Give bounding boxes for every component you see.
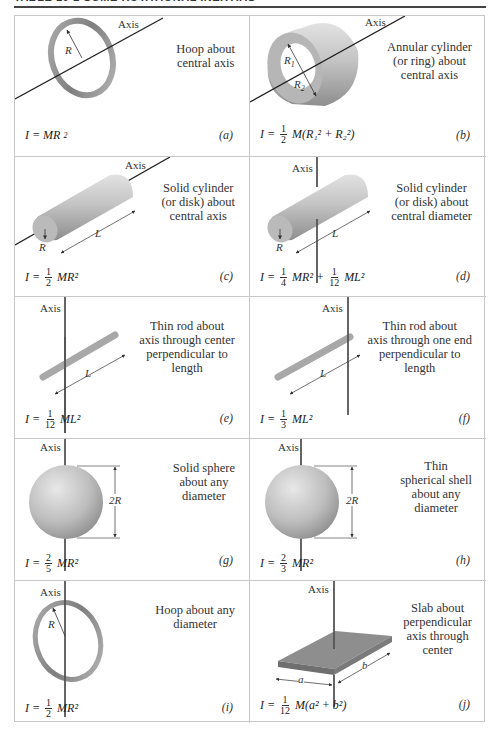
panel-e: Axis L Thin rod aboutaxis through center… [15,297,250,439]
panel-description: Solid cylinder(or disk) aboutcentral axi… [161,181,235,223]
panel-formula: I =13ML² [260,409,312,430]
panel-c: Axis R L Solid cylinder(or disk) aboutce… [15,157,250,297]
panel-letter: (j) [459,697,470,712]
panel-description: Thinspherical shellabout anydiameter [400,459,472,515]
length-label: L [320,367,326,379]
axis-label: Axis [308,583,329,595]
panel-formula: I =12MR² [25,267,78,288]
rotational-inertia-table: Axis R Hoop aboutcentral axis I = MR2 (a… [14,15,485,722]
axis-label: Axis [292,162,313,174]
panel-description: Solid cylinder(or disk) aboutcentral dia… [391,181,472,223]
panel-letter: (a) [219,128,233,143]
radius-label: R [39,241,46,253]
diameter-label: 2R [346,494,358,506]
axis-label: Axis [40,441,61,453]
panel-letter: (e) [220,411,233,426]
radius-label: R [276,241,283,253]
panel-formula: I = MR2 [25,128,67,143]
panel-letter: (c) [220,269,233,284]
panel-description: Hoop aboutcentral axis [176,42,235,70]
length-label: L [95,227,101,239]
axis-label: Axis [365,16,386,28]
panel-j: Axis a b Slab aboutperpendicularaxis thr… [250,581,486,723]
axis-label: Axis [118,18,139,30]
panel-b: Axis R1 R2 Annular cylinder(or ring) abo… [250,16,486,157]
panel-letter: (i) [222,700,233,715]
panel-description: Hoop about anydiameter [155,603,235,631]
inner-radius-label: R1 [284,54,295,69]
length-b-label: b [362,659,368,671]
panel-formula: I =112ML² [25,409,80,430]
panel-formula: I =23MR² [260,553,313,574]
panel-letter: (d) [456,269,470,284]
panel-g: Axis 2R Solid sphereabout anydiameter I … [15,439,250,581]
table-title: TABLE 10-2 SOME ROTATIONAL INERTIAS [14,0,486,5]
width-a-label: a [298,673,304,685]
axis-label: Axis [125,159,146,171]
axis-label: Axis [322,302,343,314]
panel-letter: (h) [456,553,470,568]
panel-h: Axis 2R Thinspherical shellabout anydiam… [250,439,486,581]
panel-formula: I =12MR² [25,698,78,719]
diameter-label: 2R [109,494,121,506]
panel-a: Axis R Hoop aboutcentral axis I = MR2 (a… [15,16,250,157]
panel-description: Slab aboutperpendicularaxis throughcente… [403,601,472,657]
panel-formula: I =14MR² +112ML² [260,267,364,288]
axis-label: Axis [40,302,61,314]
panel-description: Solid sphereabout anydiameter [173,461,235,503]
panel-formula: I =25MR² [25,553,78,574]
panel-d: Axis R L Solid cylinder(or disk) aboutce… [250,157,486,297]
panel-description: Thin rod aboutaxis through centerperpend… [139,319,235,375]
panel-formula: I =12M(R₁² + R₂²) [260,124,354,145]
panel-i: Axis R Hoop about anydiameter I =12MR² (… [15,581,250,723]
panel-f: Axis L Thin rod aboutaxis through one en… [250,297,486,439]
panel-description: Thin rod aboutaxis through one endperpen… [368,319,473,375]
panel-formula: I =112M(a² + b²) [260,695,346,716]
panel-letter: (g) [219,553,233,568]
header-rule [14,6,486,8]
outer-radius-label: R2 [294,78,305,93]
panel-letter: (f) [459,411,470,426]
axis-label: Axis [278,441,299,453]
length-label: L [85,367,91,379]
radius-label: R [65,44,72,56]
axis-label: Axis [40,586,61,598]
panel-description: Annular cylinder(or ring) aboutcentral a… [387,40,472,82]
radius-label: R [48,618,55,630]
panel-letter: (b) [456,128,470,143]
length-label: L [332,227,338,239]
